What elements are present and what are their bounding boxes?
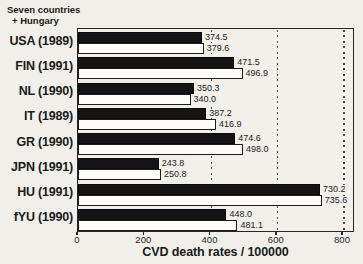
category-label-gr: GR (1990) [0, 129, 73, 154]
x-tick-label-200: 200 [135, 235, 151, 245]
bar-white-it [78, 119, 216, 130]
plot-area: 374.5 379.6 471.5 496.9 350.3 340.0 387.… [77, 28, 354, 232]
x-axis-title: CVD death rates / 100000 [77, 245, 354, 259]
bar-value-label: 250.8 [163, 170, 188, 179]
x-tick-label-0: 0 [74, 235, 79, 245]
y-axis-labels: USA (1989) FIN (1991) NL (1990) IT (1989… [0, 28, 73, 232]
bar-value-label: 474.6 [237, 134, 262, 143]
category-label-fyu: fYU (1990) [0, 205, 73, 230]
bar-white-jpn [78, 169, 161, 180]
bar-black-fin [78, 57, 234, 68]
bar-black-jpn [78, 158, 159, 169]
category-label-jpn: JPN (1991) [0, 154, 73, 179]
x-tick-label-400: 400 [202, 235, 218, 245]
x-tick-label-600: 600 [268, 235, 284, 245]
bar-value-label: 350.3 [196, 84, 221, 93]
bar-value-label: 387.2 [208, 109, 233, 118]
bar-value-label: 243.8 [161, 159, 186, 168]
bar-black-it [78, 108, 206, 119]
bar-group-fin: 471.5 496.9 [78, 54, 353, 79]
bar-group-fyu: 448.0 481.1 [78, 206, 353, 231]
bar-black-nl [78, 83, 194, 94]
chart-title-line2: + Hungary [12, 15, 80, 26]
bar-value-label: 735.6 [324, 196, 349, 205]
category-label-it: IT (1989) [0, 104, 73, 129]
bar-value-label: 416.9 [218, 120, 243, 129]
bar-black-fyu [78, 209, 226, 220]
bar-value-label: 374.5 [204, 33, 229, 42]
bar-value-label: 730.2 [322, 185, 347, 194]
bar-group-usa: 374.5 379.6 [78, 29, 353, 54]
bar-black-usa [78, 32, 202, 43]
bar-group-gr: 474.6 498.0 [78, 130, 353, 155]
chart-title-line1: Seven countries [7, 4, 80, 15]
bar-group-it: 387.2 416.9 [78, 105, 353, 130]
bar-white-nl [78, 94, 191, 105]
category-label-fin: FIN (1991) [0, 53, 73, 78]
bar-value-label: 496.9 [245, 69, 270, 78]
bar-white-usa [78, 43, 204, 54]
bar-group-nl: 350.3 340.0 [78, 80, 353, 105]
cvd-bar-chart-page: { "header": { "title_line1": "Seven coun… [0, 0, 363, 264]
bar-black-gr [78, 133, 235, 144]
bar-white-fyu [78, 220, 237, 231]
bar-white-hu [78, 195, 322, 206]
bar-value-label: 481.1 [239, 221, 264, 230]
bar-black-hu [78, 184, 320, 195]
bar-group-hu: 730.2 735.6 [78, 181, 353, 206]
bar-group-jpn: 243.8 250.8 [78, 155, 353, 180]
category-label-usa: USA (1989) [0, 28, 73, 53]
bar-white-fin [78, 68, 243, 79]
bar-value-label: 448.0 [228, 210, 253, 219]
chart-title: Seven countries + Hungary [7, 4, 80, 26]
bar-value-label: 498.0 [245, 145, 270, 154]
category-label-nl: NL (1990) [0, 79, 73, 104]
bar-value-label: 379.6 [206, 44, 231, 53]
bar-white-gr [78, 144, 243, 155]
bar-value-label: 340.0 [193, 95, 218, 104]
bar-value-label: 471.5 [236, 58, 261, 67]
x-tick-label-800: 800 [334, 235, 350, 245]
category-label-hu: HU (1991) [0, 180, 73, 205]
